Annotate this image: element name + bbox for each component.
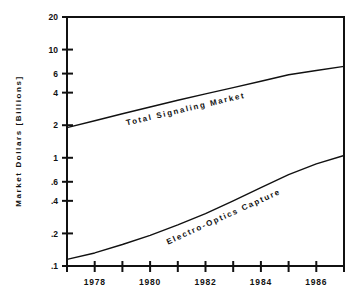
y-tick-label: 6 (53, 69, 58, 79)
data-series-group (67, 66, 344, 259)
series-line (67, 155, 344, 259)
x-tick-label: 1980 (139, 277, 161, 287)
series-line (67, 66, 344, 127)
series-label-group: Total Signaling MarketElectro-Optics Cap… (125, 91, 282, 247)
line-chart: .1.2.4.612461020 19781980198219841986 Ma… (0, 0, 362, 298)
y-tick-label: .2 (51, 229, 58, 239)
y-axis-title: Market Dollars [Billions] (14, 75, 23, 207)
y-tick-label: .1 (51, 261, 58, 271)
y-tick-label: .6 (51, 177, 58, 187)
y-tick-label: .4 (51, 196, 58, 206)
series-inline-label: Electro-Optics Capture (165, 187, 282, 246)
x-tick-label: 1982 (194, 277, 216, 287)
y-tick-label: 1 (53, 153, 58, 163)
y-tick-label: 20 (49, 12, 59, 22)
y-tick-label: 10 (49, 45, 59, 55)
x-axis-tick-labels: 19781980198219841986 (84, 277, 328, 287)
x-tick-label: 1984 (250, 277, 272, 287)
x-tick-label: 1978 (84, 277, 106, 287)
y-axis-tick-labels: .1.2.4.612461020 (49, 12, 59, 271)
x-tick-label: 1986 (305, 277, 327, 287)
y-tick-label: 2 (53, 120, 58, 130)
y-tick-label: 4 (53, 88, 58, 98)
chart-figure: .1.2.4.612461020 19781980198219841986 Ma… (0, 0, 362, 298)
